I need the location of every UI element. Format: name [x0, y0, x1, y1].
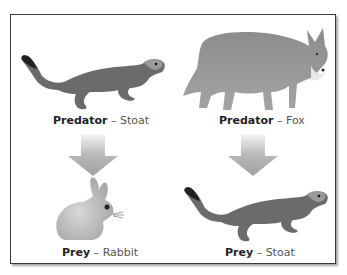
down-arrow-icon — [68, 134, 118, 176]
caption-animal: Stoat — [120, 114, 149, 127]
clipped-heading-text — [40, 0, 240, 4]
caption-animal: Rabbit — [103, 246, 138, 259]
down-arrow-icon — [228, 134, 278, 176]
fox-illustration — [183, 20, 338, 114]
caption-separator: – — [273, 114, 286, 127]
caption-prey-rabbit: Prey – Rabbit — [62, 246, 138, 259]
caption-animal: Stoat — [266, 246, 295, 259]
caption-predator-fox: Predator – Fox — [219, 114, 305, 127]
stoat-illustration — [18, 52, 168, 114]
caption-role: Prey — [62, 246, 90, 259]
caption-separator: – — [107, 114, 120, 127]
caption-predator-stoat: Predator – Stoat — [53, 114, 149, 127]
caption-separator: – — [90, 246, 103, 259]
caption-prey-stoat: Prey – Stoat — [225, 246, 295, 259]
caption-animal: Fox — [286, 114, 305, 127]
rabbit-illustration — [55, 176, 135, 242]
caption-role: Predator — [219, 114, 273, 127]
caption-role: Prey — [225, 246, 253, 259]
caption-separator: – — [253, 246, 266, 259]
stoat-illustration — [181, 184, 331, 246]
caption-role: Predator — [53, 114, 107, 127]
